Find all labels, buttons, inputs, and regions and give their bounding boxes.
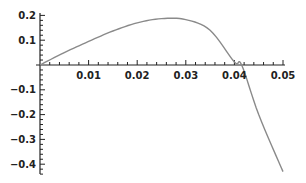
y-tick-label: −0.4 (10, 159, 36, 170)
x-axis-labels: 0.010.020.030.040.05 (76, 70, 295, 81)
y-axis-labels: 0.20.1−0.1−0.2−0.3−0.4 (10, 10, 36, 170)
series-line (40, 18, 283, 171)
y-tick-label: −0.1 (10, 84, 36, 95)
y-tick-label: −0.3 (10, 134, 36, 145)
line-chart: 0.20.1−0.1−0.2−0.3−0.4 0.010.020.030.040… (0, 0, 306, 183)
y-tick-label: −0.2 (10, 109, 36, 120)
x-tick-label: 0.01 (76, 70, 101, 81)
y-tick-label: 0.1 (18, 35, 36, 46)
x-tick-label: 0.04 (222, 70, 247, 81)
x-tick-label: 0.05 (271, 70, 296, 81)
y-tick-label: 0.2 (18, 10, 36, 21)
y-axis-ticks (40, 15, 45, 174)
x-tick-label: 0.03 (173, 70, 198, 81)
x-tick-label: 0.02 (125, 70, 150, 81)
x-axis-ticks (50, 60, 283, 65)
